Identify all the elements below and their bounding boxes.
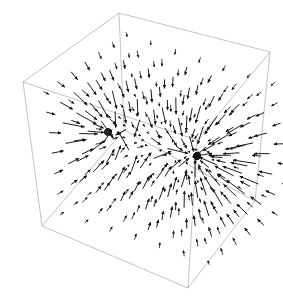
cube-edge-vert-left	[23, 82, 42, 226]
field-arrow	[99, 101, 109, 118]
field-arrow	[110, 70, 114, 80]
field-arrow	[159, 102, 160, 106]
field-arrow	[134, 181, 139, 191]
field-arrow	[148, 117, 152, 128]
field-arrow	[99, 52, 102, 59]
field-arrow	[204, 201, 209, 216]
field-arrow	[259, 171, 272, 174]
field-arrow	[199, 198, 201, 202]
field-arrow	[173, 231, 174, 238]
field-arrow	[195, 134, 199, 139]
cube-edge-top-back-right	[119, 13, 270, 52]
field-arrow	[132, 107, 134, 112]
field-arrow	[221, 192, 232, 204]
field-arrow	[201, 78, 204, 85]
field-arrow	[208, 75, 212, 82]
field-arrow	[195, 181, 198, 198]
field-arrow	[181, 123, 182, 125]
field-arrow	[99, 147, 106, 149]
field-arrow	[146, 199, 150, 210]
field-arrow	[278, 163, 283, 164]
field-arrow	[207, 117, 217, 131]
field-arrow	[186, 116, 187, 132]
field-arrow	[159, 187, 164, 200]
field-arrow	[154, 61, 155, 67]
field-arrow	[179, 118, 183, 136]
field-arrow	[134, 94, 136, 97]
field-arrow	[146, 97, 148, 105]
field-arrow	[129, 191, 133, 199]
field-arrow	[162, 107, 166, 123]
cube-edge-bottom-back-right-hidden	[124, 130, 255, 201]
field-arrow	[179, 158, 190, 167]
field-arrow	[112, 198, 116, 203]
field-arrow	[198, 126, 204, 144]
field-arrow	[126, 32, 127, 36]
field-arrow	[137, 146, 143, 148]
field-arrow	[227, 214, 234, 225]
field-arrow	[211, 157, 223, 158]
field-arrow	[157, 220, 159, 228]
cube-edge-vert-back-hidden	[119, 13, 124, 130]
field-arrow	[154, 151, 171, 158]
field-arrow	[148, 69, 149, 78]
field-arrow	[159, 243, 160, 249]
field-arrow	[96, 129, 102, 130]
field-arrow	[154, 110, 156, 125]
field-arrow	[185, 67, 187, 75]
field-arrow	[190, 108, 193, 121]
field-arrow	[199, 157, 217, 165]
field-arrow	[209, 96, 215, 107]
field-arrow	[141, 140, 142, 141]
field-arrow	[88, 83, 97, 95]
field-arrow	[242, 102, 247, 106]
field-arrow	[224, 107, 231, 114]
field-arrow	[101, 182, 104, 185]
field-arrow	[107, 149, 115, 162]
field-arrow	[137, 51, 138, 58]
field-arrow	[165, 166, 171, 176]
field-arrow	[272, 212, 278, 216]
field-arrow	[129, 102, 131, 113]
field-arrow	[261, 195, 266, 197]
field-arrow	[237, 204, 248, 215]
field-arrow	[208, 140, 212, 142]
field-arrow	[194, 149, 198, 150]
field-arrow	[162, 211, 163, 220]
field-arrow	[134, 120, 140, 137]
field-arrow	[140, 71, 141, 79]
field-arrow	[63, 123, 85, 127]
field-arrow	[221, 248, 223, 255]
field-arrow	[218, 142, 223, 144]
field-arrow	[225, 145, 244, 149]
field-arrow	[199, 209, 201, 219]
field-arrow	[82, 197, 87, 202]
field-arrow	[165, 188, 166, 192]
field-arrow	[123, 60, 125, 68]
field-arrow	[102, 162, 109, 170]
field-arrow	[205, 168, 219, 185]
field-arrow	[192, 141, 193, 142]
field-arrow	[171, 105, 172, 112]
field-arrow	[145, 153, 151, 161]
field-arrow	[248, 136, 258, 139]
field-arrow	[153, 173, 154, 174]
field-arrow	[181, 139, 187, 149]
field-arrow	[85, 62, 90, 70]
field-arrow	[272, 123, 280, 126]
field-arrow	[223, 166, 242, 173]
field-arrow	[99, 208, 103, 213]
field-arrow	[60, 102, 73, 109]
field-arrow	[135, 234, 137, 240]
field-arrow	[74, 92, 88, 105]
field-arrow	[216, 160, 225, 163]
vector-field-figure	[0, 0, 283, 302]
field-arrow	[112, 154, 115, 155]
field-arrow	[87, 192, 91, 195]
field-arrow	[151, 138, 161, 145]
field-arrow	[176, 146, 183, 151]
field-arrow	[46, 112, 55, 115]
field-arrow	[183, 95, 185, 105]
field-arrow	[88, 131, 105, 133]
field-arrow	[44, 92, 49, 95]
